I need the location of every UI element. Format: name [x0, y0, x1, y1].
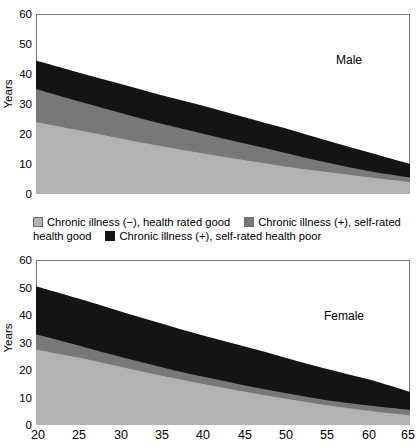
y-tick-male-20: 20 — [19, 129, 32, 140]
legend-item-chronic-illness-positive-good: Chronic illness (+), self-rated — [244, 215, 401, 229]
legend-swatch-black-icon — [105, 231, 115, 241]
chart-panel-female: 60 50 40 30 20 10 0 Years Female — [0, 252, 419, 434]
x-tick-60: 60 — [362, 428, 376, 442]
legend-label-3: health good — [33, 230, 91, 242]
y-tick-female-30: 30 — [19, 337, 32, 348]
panel-annotation-male: Male — [336, 54, 362, 67]
x-tick-30: 30 — [114, 428, 128, 442]
x-tick-65: 65 — [401, 428, 415, 442]
y-tick-female-10: 10 — [19, 392, 32, 403]
y-axis-title-male: Years — [2, 72, 14, 116]
legend-item-chronic-illness-negative: Chronic illness (−), health rated good — [33, 215, 230, 229]
y-tick-female-20: 20 — [19, 365, 32, 376]
y-tick-female-40: 40 — [19, 310, 32, 321]
legend-row-1: Chronic illness (−), health rated good C… — [33, 215, 413, 229]
legend-label-2: Chronic illness (+), self-rated — [258, 216, 401, 228]
y-tick-male-50: 50 — [19, 39, 32, 50]
x-tick-25: 25 — [72, 428, 86, 442]
x-tick-45: 45 — [238, 428, 252, 442]
legend-swatch-light-gray-icon — [33, 217, 43, 227]
y-axis-title-female: Years — [2, 316, 14, 360]
y-tick-male-60: 60 — [19, 9, 32, 20]
y-tick-male-30: 30 — [19, 99, 32, 110]
legend-item-chronic-illness-positive-poor: Chronic illness (+), self-rated health p… — [105, 229, 321, 243]
y-tick-male-40: 40 — [19, 69, 32, 80]
plot-area-male: Male — [36, 14, 410, 194]
figure-root: 60 50 40 30 20 10 0 Years Male Chronic i… — [0, 0, 419, 447]
x-tick-35: 35 — [155, 428, 169, 442]
chart-legend: Chronic illness (−), health rated good C… — [33, 215, 413, 243]
plot-area-female: Female — [36, 260, 410, 425]
y-tick-female-50: 50 — [19, 282, 32, 293]
panel-annotation-female: Female — [324, 310, 364, 323]
y-tick-male-0: 0 — [26, 189, 32, 200]
y-tick-male-10: 10 — [19, 159, 32, 170]
legend-label-1: Chronic illness (−), health rated good — [47, 216, 230, 228]
stacked-area-svg-male — [36, 14, 410, 194]
y-tick-female-60: 60 — [19, 255, 32, 266]
legend-label-4: Chronic illness (+), self-rated health p… — [119, 230, 321, 242]
x-tick-55: 55 — [320, 428, 334, 442]
legend-swatch-mid-gray-icon — [244, 217, 254, 227]
x-tick-50: 50 — [279, 428, 293, 442]
legend-row-2: health good Chronic illness (+), self-ra… — [33, 229, 413, 243]
x-axis-labels: 20 25 30 35 40 45 50 55 60 65 — [0, 428, 419, 446]
stacked-area-svg-female — [36, 260, 410, 425]
legend-item-continuation: health good — [33, 229, 91, 243]
x-tick-40: 40 — [196, 428, 210, 442]
x-tick-20: 20 — [31, 428, 45, 442]
chart-panel-male: 60 50 40 30 20 10 0 Years Male — [0, 0, 419, 200]
